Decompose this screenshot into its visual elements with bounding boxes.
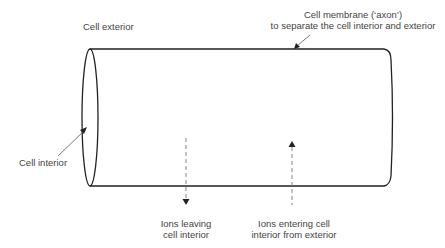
cylinder-bottom-edge — [90, 176, 391, 186]
ions-leaving-label: Ions leaving cell interior — [146, 218, 226, 240]
ions-entering-arrow — [289, 141, 296, 205]
cell-membrane-label-line2: to separate the cell interior and exteri… — [253, 20, 445, 31]
cylinder-right-end — [391, 60, 393, 176]
cell-exterior-label: Cell exterior — [83, 21, 134, 32]
ions-leaving-label-line2: cell interior — [146, 229, 226, 240]
ions-entering-label: Ions entering cell interior from exterio… — [242, 218, 346, 240]
ions-leaving-label-line1: Ions leaving — [146, 218, 226, 229]
cylinder-left-end — [82, 49, 98, 186]
cylinder-top-edge — [90, 49, 391, 60]
cell-interior-label: Cell interior — [19, 157, 67, 168]
cell-membrane-cylinder — [82, 49, 393, 186]
ions-entering-label-line1: Ions entering cell — [242, 218, 346, 229]
ions-leaving-arrow — [183, 138, 190, 205]
ions-entering-label-line2: interior from exterior — [242, 229, 346, 240]
membrane-pointer-arrow — [294, 35, 310, 49]
cell-membrane-label: Cell membrane (‘axon’) to separate the c… — [253, 9, 445, 31]
axon-cylinder-diagram — [0, 0, 445, 248]
cell-membrane-label-line1: Cell membrane (‘axon’) — [253, 9, 445, 20]
